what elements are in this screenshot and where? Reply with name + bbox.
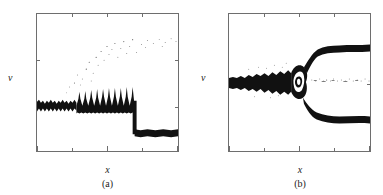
scatter-data-a bbox=[37, 14, 178, 151]
figure-container: 0.1 -0.05 0 0 50 100 v x (a) bbox=[0, 0, 383, 195]
plot-area-a: 0.1 -0.05 0 0 50 100 bbox=[36, 13, 179, 152]
scatter-data-b bbox=[229, 14, 370, 151]
panel-caption-a: (a) bbox=[0, 178, 192, 189]
plot-area-b: 0.2 -0.2 0 0 25 50 bbox=[228, 13, 371, 152]
sparse-points-a bbox=[66, 38, 176, 93]
xaxis-label-a: x bbox=[0, 164, 192, 175]
panel-caption-b: (b) bbox=[191, 178, 383, 189]
yaxis-label-a: v bbox=[8, 72, 12, 83]
panel-b: 0.2 -0.2 0 0 25 50 v x (b) bbox=[191, 0, 383, 195]
panel-a: 0.1 -0.05 0 0 50 100 v x (a) bbox=[0, 0, 192, 195]
xaxis-label-b: x bbox=[191, 164, 383, 175]
yaxis-label-b: v bbox=[201, 72, 205, 83]
